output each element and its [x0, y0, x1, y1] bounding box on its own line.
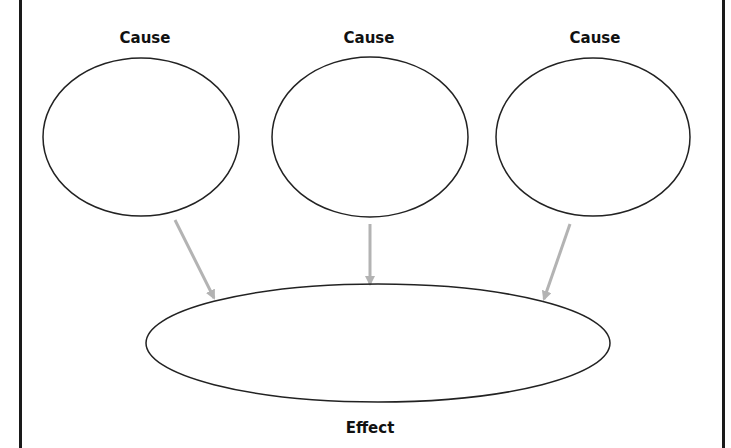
right-border [722, 0, 725, 448]
cause-circle-2[interactable] [272, 57, 468, 217]
arrow-1 [175, 220, 214, 298]
cause-circle-1[interactable] [43, 58, 239, 216]
cause-circle-3[interactable] [496, 58, 690, 216]
cause-label-2: Cause [344, 29, 395, 47]
effect-ellipse[interactable] [146, 284, 610, 402]
cause-label-3: Cause [570, 29, 621, 47]
left-border [19, 0, 22, 448]
cause-label-1: Cause [120, 29, 171, 47]
arrow-3 [544, 224, 570, 299]
effect-label: Effect [346, 419, 395, 437]
diagram-canvas: Cause Cause Cause Effect [0, 0, 731, 448]
diagram-svg [0, 0, 731, 448]
